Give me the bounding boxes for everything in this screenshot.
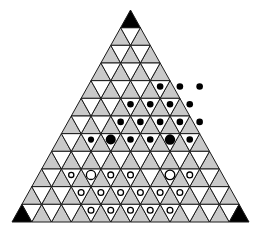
black-marker xyxy=(196,83,203,90)
white-marker xyxy=(108,207,114,213)
black-marker xyxy=(157,119,164,126)
white-marker xyxy=(118,190,124,196)
black-marker xyxy=(177,119,184,126)
black-marker xyxy=(127,101,134,108)
black-marker xyxy=(147,136,154,143)
white-marker xyxy=(177,190,183,196)
white-marker xyxy=(137,190,143,196)
white-marker xyxy=(187,172,193,178)
black-marker xyxy=(186,101,193,108)
white-marker xyxy=(108,172,114,178)
black-marker xyxy=(106,135,116,145)
corner-triangle xyxy=(121,10,141,28)
black-marker xyxy=(196,119,203,126)
white-marker xyxy=(128,207,134,213)
white-marker xyxy=(98,190,104,196)
white-marker xyxy=(88,207,94,213)
white-marker xyxy=(157,190,163,196)
black-marker xyxy=(147,101,154,108)
black-marker xyxy=(127,136,134,143)
black-marker xyxy=(186,136,193,143)
white-marker xyxy=(165,170,175,180)
white-marker xyxy=(86,170,95,179)
triangular-lattice-svg xyxy=(0,0,261,231)
white-marker xyxy=(167,207,173,213)
black-marker xyxy=(165,134,175,144)
black-marker xyxy=(88,136,94,142)
triangular-grid-figure xyxy=(0,0,261,231)
white-marker xyxy=(147,207,153,213)
black-marker xyxy=(137,119,144,126)
white-marker xyxy=(128,172,134,178)
white-marker xyxy=(78,190,84,196)
black-marker xyxy=(117,119,124,126)
black-marker xyxy=(157,83,164,90)
black-marker xyxy=(167,101,174,108)
white-marker xyxy=(69,172,74,177)
black-marker xyxy=(177,83,184,90)
